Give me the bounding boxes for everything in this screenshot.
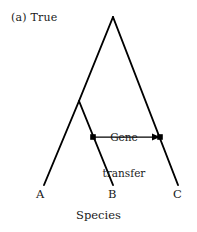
panel-label: (a) True (11, 12, 57, 25)
tip-label-b: B (108, 188, 116, 201)
tip-label-a: A (36, 188, 44, 201)
tip-label-c: C (173, 188, 182, 201)
gene-transfer-annotation-line-1: Gene (96, 131, 152, 143)
recipient-node-marker (157, 134, 163, 140)
gene-transfer-annotation-line-2: transfer (96, 167, 152, 179)
figure-root: (a) True Gene transfer A B C Species (0, 0, 197, 232)
gene-transfer-annotation: Gene transfer (96, 107, 152, 204)
donor-node-marker (90, 134, 96, 140)
species-axis-caption: Species (0, 209, 197, 222)
